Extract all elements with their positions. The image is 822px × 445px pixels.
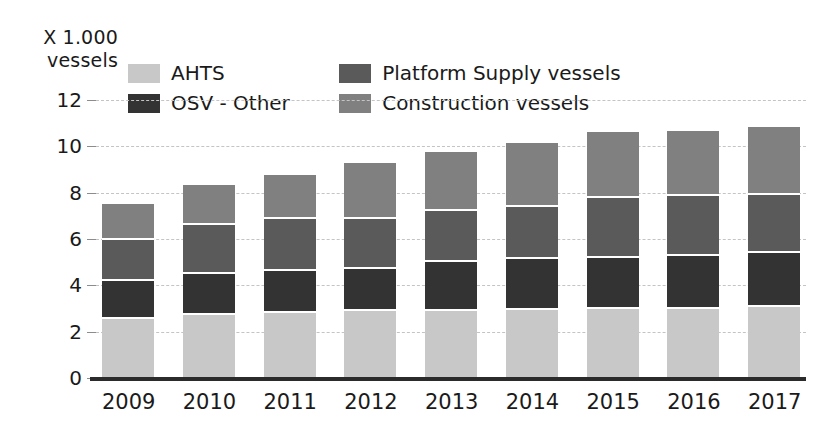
bar-segment[interactable] xyxy=(264,271,316,313)
y-axis-tick-label: 0 xyxy=(69,366,82,390)
y-axis-tick-mark xyxy=(87,285,96,286)
bar-segment[interactable] xyxy=(748,127,800,195)
bar-stack xyxy=(425,152,477,378)
bar-segment[interactable] xyxy=(425,152,477,211)
bar-segment[interactable] xyxy=(264,313,316,378)
bar-group[interactable] xyxy=(183,100,235,378)
y-axis-tick-mark xyxy=(87,332,96,333)
x-axis-tick-label: 2009 xyxy=(102,390,154,414)
y-axis-tick-mark xyxy=(87,239,96,240)
bar-segment[interactable] xyxy=(425,262,477,311)
bar-segment[interactable] xyxy=(183,225,235,274)
x-axis-line xyxy=(90,377,806,381)
bar-segment[interactable] xyxy=(425,211,477,262)
bar-segment[interactable] xyxy=(506,143,558,207)
bar-series-container xyxy=(96,100,806,378)
bar-segment[interactable] xyxy=(102,319,154,378)
bar-segment[interactable] xyxy=(264,219,316,271)
bar-group[interactable] xyxy=(748,100,800,378)
bar-stack xyxy=(102,204,154,378)
y-axis-tick-mark xyxy=(87,193,96,194)
bar-stack xyxy=(667,131,719,378)
bar-stack xyxy=(183,185,235,378)
y-axis-tick-label: 8 xyxy=(69,181,82,205)
bar-segment[interactable] xyxy=(506,259,558,310)
legend-item-ahts[interactable]: AHTS xyxy=(128,62,317,84)
bar-segment[interactable] xyxy=(587,309,639,379)
bar-stack xyxy=(344,163,396,378)
bar-segment[interactable] xyxy=(748,253,800,307)
bar-group[interactable] xyxy=(587,100,639,378)
x-axis-tick-label: 2010 xyxy=(183,390,235,414)
bar-group[interactable] xyxy=(264,100,316,378)
bar-segment[interactable] xyxy=(587,198,639,257)
bar-stack xyxy=(748,127,800,378)
bar-segment[interactable] xyxy=(344,219,396,269)
y-axis-tick-mark xyxy=(87,146,96,147)
bar-segment[interactable] xyxy=(344,163,396,220)
bar-group[interactable] xyxy=(667,100,719,378)
bar-stack xyxy=(264,175,316,378)
bar-segment[interactable] xyxy=(506,310,558,378)
y-axis-tick-label: 10 xyxy=(57,134,82,158)
y-axis-tick-label: 4 xyxy=(69,273,82,297)
y-axis-tick-label: 12 xyxy=(57,88,82,112)
x-axis-tick-label: 2015 xyxy=(587,390,639,414)
x-axis-tick-label: 2011 xyxy=(264,390,316,414)
bar-segment[interactable] xyxy=(183,185,235,226)
legend-label-ahts: AHTS xyxy=(171,62,225,84)
legend-label-platform-supply-vessels: Platform Supply vessels xyxy=(382,62,620,84)
bar-group[interactable] xyxy=(506,100,558,378)
plot-area: 121086420 xyxy=(96,100,806,378)
legend-swatch-icon-ahts xyxy=(128,64,160,83)
bar-segment[interactable] xyxy=(102,281,154,319)
bar-stack xyxy=(587,132,639,378)
x-axis-tick-label: 2013 xyxy=(425,390,477,414)
legend-item-platform-supply-vessels[interactable]: Platform Supply vessels xyxy=(339,62,648,84)
stacked-bar-chart: X 1.000 vessels AHTS Platform Supply ves… xyxy=(0,0,822,445)
bar-segment[interactable] xyxy=(667,131,719,196)
bar-segment[interactable] xyxy=(587,132,639,198)
x-axis-labels: 200920102011201220132014201520162017 xyxy=(96,390,806,414)
bar-segment[interactable] xyxy=(748,307,800,378)
y-axis-tick-label: 2 xyxy=(69,320,82,344)
bar-stack xyxy=(506,143,558,378)
bar-segment[interactable] xyxy=(183,274,235,316)
bar-segment[interactable] xyxy=(102,240,154,281)
bar-group[interactable] xyxy=(425,100,477,378)
y-axis-tick-mark xyxy=(87,100,96,101)
bar-group[interactable] xyxy=(102,100,154,378)
bar-segment[interactable] xyxy=(748,195,800,253)
x-axis-tick-label: 2016 xyxy=(667,390,719,414)
bar-segment[interactable] xyxy=(667,196,719,256)
bar-segment[interactable] xyxy=(425,311,477,378)
bar-segment[interactable] xyxy=(264,175,316,219)
bar-group[interactable] xyxy=(344,100,396,378)
y-axis-tick-label: 6 xyxy=(69,227,82,251)
bar-segment[interactable] xyxy=(102,204,154,240)
y-axis-title: X 1.000 vessels xyxy=(8,26,118,72)
x-axis-tick-label: 2014 xyxy=(506,390,558,414)
legend-swatch-icon-platform-supply-vessels xyxy=(339,64,371,83)
bar-segment[interactable] xyxy=(506,207,558,259)
bar-segment[interactable] xyxy=(667,256,719,308)
bar-segment[interactable] xyxy=(667,309,719,379)
x-axis-tick-label: 2017 xyxy=(748,390,800,414)
bar-segment[interactable] xyxy=(183,315,235,378)
x-axis-tick-label: 2012 xyxy=(344,390,396,414)
bar-segment[interactable] xyxy=(344,311,396,378)
bar-segment[interactable] xyxy=(587,258,639,309)
bar-segment[interactable] xyxy=(344,269,396,311)
